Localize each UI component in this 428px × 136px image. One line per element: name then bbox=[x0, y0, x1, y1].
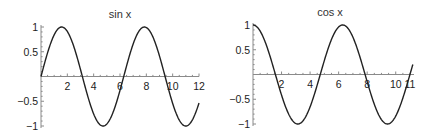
y-tick-label: 1 bbox=[32, 21, 38, 33]
x-tick-label: 10 bbox=[390, 78, 402, 90]
y-tick-label: −0.5 bbox=[17, 95, 38, 107]
x-tick-label: 4 bbox=[91, 80, 97, 92]
y-tick-label: 0.5 bbox=[235, 44, 250, 56]
y-tick-label: −1 bbox=[26, 120, 38, 132]
chart-figure: sin x 2468101210.5−0.5−1 cos x 246810111… bbox=[0, 0, 428, 136]
x-tick-label: 6 bbox=[336, 78, 342, 90]
x-tick-label: 4 bbox=[307, 78, 313, 90]
y-tick-label: 0.5 bbox=[23, 46, 38, 58]
y-tick-label: −0.5 bbox=[229, 93, 250, 105]
cos-chart: cos x 2468101110.5−0.5−1 bbox=[229, 6, 415, 130]
plots-canvas: sin x 2468101210.5−0.5−1 cos x 246810111… bbox=[0, 0, 428, 136]
sin-chart: sin x 2468101210.5−0.5−1 bbox=[17, 8, 205, 132]
chart-title: sin x bbox=[109, 8, 132, 20]
x-tick-label: 8 bbox=[143, 80, 149, 92]
x-tick-label: 2 bbox=[64, 80, 70, 92]
y-tick-label: 1 bbox=[244, 19, 250, 31]
axes: 2468101110.5−0.5−1 bbox=[229, 19, 415, 130]
y-tick-label: −1 bbox=[238, 118, 250, 130]
chart-title: cos x bbox=[317, 6, 343, 18]
x-tick-label: 12 bbox=[193, 80, 205, 92]
